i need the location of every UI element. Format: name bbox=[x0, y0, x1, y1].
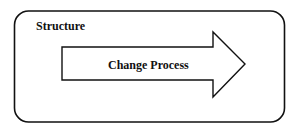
structure-label: Structure bbox=[36, 19, 86, 33]
diagram-canvas: Structure Change Process bbox=[0, 0, 299, 132]
change-process-label: Change Process bbox=[108, 58, 189, 72]
